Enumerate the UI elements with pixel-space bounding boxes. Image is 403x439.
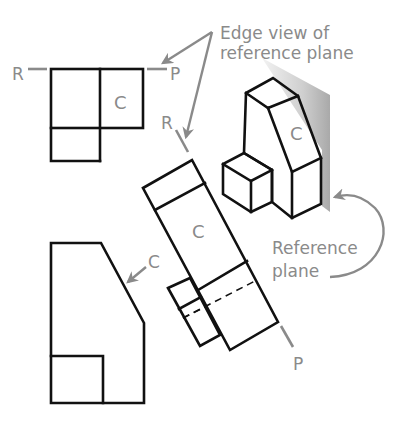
- arrow-to-aux-edge: [186, 32, 212, 137]
- aux-small-box-divider: [179, 297, 201, 309]
- top-view-lower-box: [51, 128, 100, 161]
- label-c-top: C: [114, 92, 127, 113]
- edge-view-text-line1: Edge view of: [220, 23, 330, 43]
- front-view-outline: [51, 243, 144, 403]
- label-p-top: P: [170, 64, 180, 84]
- pictorial-view: C: [223, 58, 330, 218]
- top-view: R P C: [12, 64, 180, 161]
- top-view-outline: [51, 69, 143, 128]
- front-view: C: [51, 243, 160, 403]
- label-c-front: C: [148, 252, 160, 272]
- diagram-canvas: R P C Edge view of reference plane C Ref…: [0, 0, 403, 439]
- reference-line-p-aux: [281, 326, 293, 347]
- aux-main-rect: [143, 160, 278, 350]
- label-r-top: R: [12, 64, 24, 84]
- arrow-to-face-c: [128, 267, 146, 282]
- aux-small-hidden-line: [183, 307, 205, 318]
- curved-arrow-to-plane: [330, 195, 384, 277]
- label-c-pictorial: C: [290, 123, 303, 144]
- reference-plane-text-line1: Reference: [272, 238, 358, 258]
- label-p-aux: P: [293, 354, 303, 374]
- label-r-aux: R: [161, 113, 173, 133]
- aux-lower-divider: [198, 261, 247, 290]
- pictorial-small-cube: [223, 153, 272, 212]
- edge-view-text-line2: reference plane: [220, 43, 354, 63]
- reference-plane-text-line2: plane: [272, 261, 319, 281]
- label-c-aux: C: [192, 221, 205, 242]
- front-view-inner-box: [51, 356, 103, 403]
- aux-top-divider: [155, 183, 205, 210]
